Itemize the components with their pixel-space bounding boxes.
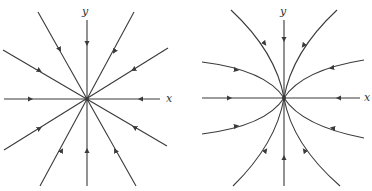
trajectory-curve xyxy=(231,10,284,98)
trajectory-curve xyxy=(202,98,284,134)
y-axis-label: y xyxy=(81,5,89,18)
right-panel-improper-node: y x xyxy=(186,0,372,191)
trajectory-curve xyxy=(284,10,337,98)
origin-point xyxy=(85,97,89,101)
x-axis-label: x xyxy=(364,91,371,104)
trajectory-curve xyxy=(233,98,284,186)
origin-point xyxy=(282,96,286,100)
trajectory-curve xyxy=(284,98,340,186)
star-node-phase-portrait: y x xyxy=(0,0,186,191)
x-axis-label: x xyxy=(166,92,173,105)
left-panel-star-node: y x xyxy=(0,0,186,191)
trajectory-curve xyxy=(202,62,284,98)
trajectory-curve xyxy=(284,60,364,98)
improper-node-phase-portrait: y x xyxy=(186,0,372,191)
y-axis-label: y xyxy=(279,5,287,18)
